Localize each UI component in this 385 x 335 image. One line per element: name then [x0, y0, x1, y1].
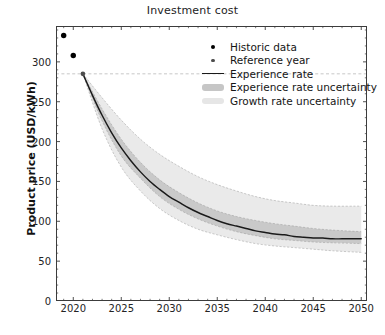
y-tick-label: 100: [21, 216, 51, 227]
y-tick-label: 50: [21, 256, 51, 267]
line-swatch-icon: [196, 73, 230, 74]
x-tick-label: 2045: [301, 303, 326, 314]
y-tick-label: 250: [21, 96, 51, 107]
legend-label: Growth rate uncertainty: [230, 95, 356, 107]
legend-label: Experience rate: [230, 68, 313, 80]
y-tick-label: 300: [21, 56, 51, 67]
data-points: [61, 33, 85, 76]
legend-item[interactable]: Experience rate uncertainty: [196, 81, 377, 95]
x-tick-label: 2030: [157, 303, 182, 314]
legend-item[interactable]: Reference year: [196, 54, 377, 68]
historic-marker-icon: [196, 45, 230, 50]
legend-item[interactable]: Experience rate: [196, 67, 377, 81]
x-tick-label: 2020: [61, 303, 86, 314]
legend-label: Reference year: [230, 54, 310, 66]
investment-cost-chart: Investment cost Product price (USD/kWh) …: [0, 0, 385, 335]
light-band-swatch-icon: [196, 98, 230, 105]
y-tick-label: 200: [21, 136, 51, 147]
x-tick-label: 2035: [205, 303, 230, 314]
y-tick-label: 0: [21, 296, 51, 307]
reference-marker-icon: [196, 59, 230, 62]
legend-item[interactable]: Historic data: [196, 40, 377, 54]
dark-band-swatch-icon: [196, 84, 230, 91]
legend-item[interactable]: Growth rate uncertainty: [196, 94, 377, 108]
x-tick-label: 2040: [253, 303, 278, 314]
x-tick-label: 2050: [349, 303, 374, 314]
y-tick-label: 150: [21, 176, 51, 187]
chart-legend: Historic dataReference yearExperience ra…: [196, 40, 377, 108]
x-tick-label: 2025: [109, 303, 134, 314]
legend-label: Experience rate uncertainty: [230, 81, 377, 93]
chart-title: Investment cost: [0, 4, 385, 17]
y-axis-label: Product price (USD/kWh): [25, 44, 38, 274]
legend-label: Historic data: [230, 41, 297, 53]
